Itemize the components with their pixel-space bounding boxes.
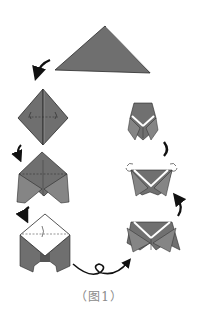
step-1-triangle: [55, 26, 151, 73]
curved-arrow-icon: [164, 142, 167, 156]
curved-arrow-icon: [37, 60, 50, 74]
curved-arrow-icon: [177, 198, 181, 216]
figure-caption: （图1）: [0, 287, 198, 304]
step-5-v-collar: [127, 222, 180, 252]
step-7-corners-folded-back: [126, 163, 177, 196]
origami-diagram: [0, 0, 198, 320]
step-3-flaps-down: [17, 152, 69, 203]
step-2-diamond: [18, 89, 68, 145]
curved-arrow-icon: [18, 145, 21, 157]
turn-over-loop-arrow-icon: [73, 262, 128, 274]
curved-arrow-icon: [24, 207, 29, 217]
step-8-finished-cicada: [128, 103, 158, 140]
step-4-top-flap-folded: [20, 214, 70, 272]
